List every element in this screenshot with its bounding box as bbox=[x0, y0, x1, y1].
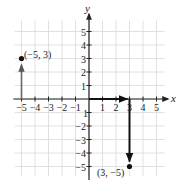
y-tick-label: 1 bbox=[81, 81, 86, 92]
y-tick-label: 3 bbox=[81, 54, 86, 65]
x-tick-label: −5 bbox=[16, 102, 27, 113]
y-tick-label: −2 bbox=[75, 121, 86, 132]
x-axis-label: x bbox=[170, 92, 176, 104]
point-a-label: (−5, 3) bbox=[24, 49, 51, 61]
x-tick-label: −4 bbox=[30, 102, 41, 113]
x-tick-label: −3 bbox=[43, 102, 54, 113]
y-tick-label: 1 bbox=[83, 108, 88, 119]
y-tick-label: −5 bbox=[75, 162, 86, 173]
y-axis-label: y bbox=[84, 2, 90, 14]
x-tick-label: 2 bbox=[114, 102, 119, 113]
y-tick-label: −3 bbox=[75, 135, 86, 146]
y-tick-label: 4 bbox=[81, 40, 86, 51]
x-tick-label: −1 bbox=[70, 102, 81, 113]
data-point bbox=[127, 164, 132, 169]
x-tick-label: −2 bbox=[57, 102, 68, 113]
x-tick-label: 1 bbox=[100, 102, 105, 113]
y-tick-label: 2 bbox=[81, 67, 86, 78]
y-tick-label: −4 bbox=[75, 148, 86, 159]
y-tick-label: 5 bbox=[81, 27, 86, 38]
coordinate-plane: −5−4−3−2−112345543211−2−3−4−5 x y (−5, 3… bbox=[0, 0, 182, 191]
x-tick-label: 4 bbox=[141, 102, 146, 113]
point-b-label: (3, −5) bbox=[97, 167, 124, 179]
axes bbox=[13, 14, 168, 180]
x-tick-label: 5 bbox=[154, 102, 159, 113]
